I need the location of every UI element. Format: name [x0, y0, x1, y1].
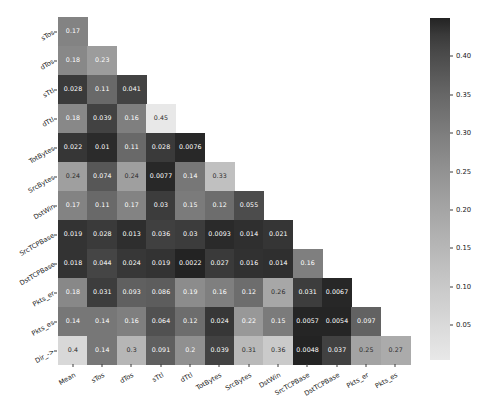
x-axis: MeansTosdTossTtldTtlTotBytesSrcBytesDstW…: [58, 367, 410, 413]
heatmap-cell: 0.016: [234, 249, 264, 278]
heatmap-cell-value: 0.11: [95, 202, 109, 208]
heatmap-cell: 0.014: [234, 220, 264, 249]
y-axis: sTosdTossTtldTtlTotBytesSrcBytesDstWinSr…: [0, 17, 54, 365]
heatmap-cell-value: 0.14: [95, 318, 109, 324]
heatmap-cell-value: 0.18: [66, 57, 80, 63]
heatmap-cell-value: 0.0057: [296, 318, 319, 324]
heatmap-cell-value: 0.037: [328, 347, 347, 353]
heatmap-cell-value: 0.12: [242, 289, 256, 295]
heatmap-cell: 0.12: [205, 191, 235, 220]
heatmap-cell: 0.3: [117, 336, 147, 365]
y-axis-label: DstWin: [32, 202, 56, 221]
heatmap-cell-value: 0.0022: [179, 260, 202, 266]
heatmap-cell-value: 0.14: [66, 318, 80, 324]
heatmap-cell-value: 0.055: [240, 202, 259, 208]
heatmap-cell: 0.22: [234, 307, 264, 336]
heatmap-cell: 0.16: [293, 249, 323, 278]
heatmap-cell-value: 0.0048: [296, 347, 319, 353]
heatmap-cell-value: 0.17: [66, 202, 80, 208]
heatmap-cell-value: 0.24: [124, 173, 138, 179]
heatmap-cell: 0.019: [146, 249, 176, 278]
heatmap-cell-value: 0.027: [210, 260, 229, 266]
heatmap-cell: 0.14: [175, 162, 205, 191]
heatmap-cell-value: 0.24: [66, 173, 80, 179]
heatmap-cell: 0.17: [58, 17, 88, 46]
heatmap-cell-value: 0.018: [64, 260, 83, 266]
x-axis-tick: [190, 364, 191, 367]
heatmap-cell: 0.039: [87, 104, 117, 133]
y-axis-label: TotBytes: [28, 144, 56, 165]
colorbar-tick-label: 0.35: [456, 91, 471, 99]
heatmap-cell: 0.18: [58, 46, 88, 75]
heatmap-cell-value: 0.3: [126, 347, 136, 353]
heatmap-cell-value: 0.26: [271, 289, 285, 295]
heatmap-cell: 0.031: [293, 278, 323, 307]
heatmap-cell: 0.16: [205, 278, 235, 307]
colorbar-tick: [450, 325, 453, 326]
heatmap-cell-value: 0.22: [242, 318, 256, 324]
heatmap-cell-value: 0.33: [212, 173, 226, 179]
colorbar-tick-label: 0.25: [456, 168, 471, 176]
heatmap-cell-value: 0.45: [154, 115, 168, 121]
colorbar: 0.050.100.150.200.250.300.350.40: [430, 18, 450, 360]
y-axis-label: DstTCPBase: [18, 260, 56, 287]
heatmap-cell: 0.028: [146, 133, 176, 162]
heatmap-cell-value: 0.093: [122, 289, 141, 295]
heatmap-cell-value: 0.17: [66, 28, 80, 34]
heatmap-cell: 0.019: [58, 220, 88, 249]
heatmap-cell: 0.27: [381, 336, 411, 365]
heatmap-figure: 0.170.180.230.0280.110.0410.180.0390.160…: [0, 0, 483, 415]
heatmap-cell-value: 0.028: [64, 86, 83, 92]
colorbar-tick-label: 0.15: [456, 244, 471, 252]
heatmap-cell-value: 0.15: [271, 318, 285, 324]
colorbar-tick: [450, 171, 453, 172]
heatmap-cell-value: 0.01: [95, 144, 109, 150]
heatmap-cell: 0.028: [58, 75, 88, 104]
heatmap-cell-value: 0.0054: [326, 318, 349, 324]
heatmap-cell-value: 0.11: [124, 144, 138, 150]
heatmap-cell: 0.044: [87, 249, 117, 278]
heatmap-cell: 0.11: [87, 75, 117, 104]
heatmap-cell-value: 0.031: [298, 289, 317, 295]
heatmap-cell-value: 0.0093: [208, 231, 231, 237]
heatmap-cell: 0.022: [58, 133, 88, 162]
colorbar-tick: [450, 248, 453, 249]
colorbar-tick: [450, 56, 453, 57]
heatmap-cell-value: 0.31: [242, 347, 256, 353]
heatmap-cell-value: 0.12: [212, 202, 226, 208]
heatmap-cell-value: 0.064: [152, 318, 171, 324]
heatmap-cell: 0.15: [263, 307, 293, 336]
colorbar-tick-label: 0.30: [456, 129, 471, 137]
heatmap-cell: 0.25: [351, 336, 381, 365]
x-axis-tick: [366, 364, 367, 367]
heatmap-cell-value: 0.019: [64, 231, 83, 237]
x-axis-tick: [219, 364, 220, 367]
heatmap-cell: 0.0048: [293, 336, 323, 365]
heatmap-cell: 0.14: [58, 307, 88, 336]
colorbar-tick-label: 0.05: [456, 321, 471, 329]
heatmap-cell: 0.4: [58, 336, 88, 365]
heatmap-cell-value: 0.039: [210, 347, 229, 353]
heatmap-cell-value: 0.16: [212, 289, 226, 295]
y-axis-label: SrcTCPBase: [19, 231, 56, 257]
colorbar-tick: [450, 286, 453, 287]
heatmap-cell: 0.0093: [205, 220, 235, 249]
heatmap-cell: 0.014: [263, 249, 293, 278]
heatmap-cell-value: 0.021: [269, 231, 288, 237]
x-axis-tick: [278, 364, 279, 367]
heatmap-cell: 0.03: [146, 191, 176, 220]
heatmap-cell-value: 0.024: [210, 318, 229, 324]
colorbar-tick: [450, 133, 453, 134]
heatmap-cell-value: 0.16: [124, 115, 138, 121]
heatmap-cell-value: 0.091: [152, 347, 171, 353]
heatmap-cell-value: 0.19: [183, 289, 197, 295]
x-axis-tick: [72, 364, 73, 367]
heatmap-cell-value: 0.18: [66, 115, 80, 121]
heatmap-cell: 0.15: [175, 191, 205, 220]
y-axis-tick: [54, 234, 57, 235]
heatmap-cell-value: 0.0076: [179, 144, 202, 150]
heatmap-cell: 0.12: [175, 307, 205, 336]
heatmap-cell-value: 0.074: [93, 173, 112, 179]
colorbar-tick: [450, 210, 453, 211]
y-axis-label: Pkts_es: [31, 318, 56, 337]
